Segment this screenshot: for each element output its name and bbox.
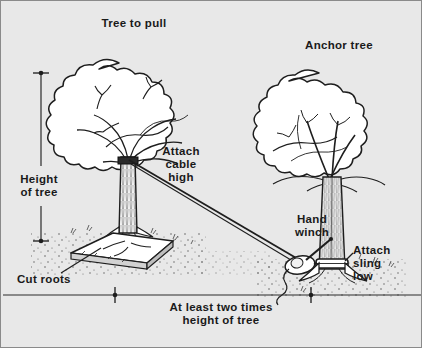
illustration-frame: Tree to pull Anchor tree Attach cable hi… — [0, 0, 422, 348]
label-attach-sling-low: Attach sling low — [353, 244, 415, 283]
label-attach-cable-high: Attach cable high — [153, 145, 209, 184]
height-of-tree-dimension — [33, 71, 49, 244]
label-spacing-caption: At least two times height of tree — [121, 301, 321, 327]
label-height-of-tree: Height of tree — [3, 173, 75, 199]
label-hand-winch: Hand winch — [284, 213, 340, 239]
dimension-tick-left — [113, 287, 118, 303]
label-tree-to-pull: Tree to pull — [79, 17, 189, 30]
label-cut-roots: Cut roots — [17, 273, 103, 286]
label-anchor-tree: Anchor tree — [289, 39, 389, 52]
dimension-tick-top — [33, 71, 49, 76]
